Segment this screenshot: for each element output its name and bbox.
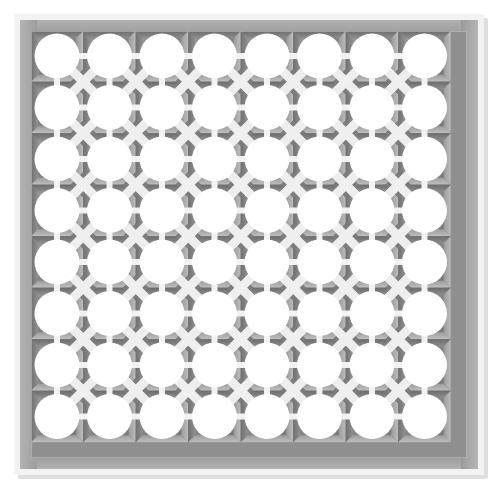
junction-node: [235, 333, 247, 345]
junction-node: [130, 76, 142, 88]
junction-node: [287, 333, 299, 345]
junction-node: [130, 385, 142, 397]
circle-aperture: [140, 343, 185, 388]
junction-node: [287, 76, 299, 88]
circle-aperture: [192, 137, 237, 182]
circle-aperture: [297, 34, 342, 79]
junction-node: [182, 282, 194, 294]
circle-aperture: [192, 240, 237, 285]
circle-aperture: [297, 188, 342, 233]
circle-aperture: [402, 394, 447, 439]
circle-aperture: [245, 291, 290, 336]
circle-aperture: [192, 34, 237, 79]
circle-aperture: [87, 34, 132, 79]
junction-node: [392, 282, 404, 294]
junction-node: [77, 127, 89, 139]
circle-aperture: [35, 34, 80, 79]
circle-aperture: [350, 34, 395, 79]
circle-aperture: [297, 394, 342, 439]
circle-aperture: [297, 343, 342, 388]
circle-aperture: [87, 343, 132, 388]
circle-aperture: [87, 137, 132, 182]
circle-aperture: [350, 343, 395, 388]
junction-node: [340, 333, 352, 345]
junction-node: [340, 127, 352, 139]
circle-aperture: [87, 240, 132, 285]
circle-aperture: [245, 85, 290, 130]
junction-node: [130, 333, 142, 345]
circle-aperture: [140, 240, 185, 285]
junction-node: [287, 179, 299, 191]
circle-aperture: [402, 291, 447, 336]
junction-node: [340, 230, 352, 242]
junction-node: [392, 179, 404, 191]
circle-aperture: [297, 85, 342, 130]
circle-aperture: [35, 188, 80, 233]
junction-node: [130, 127, 142, 139]
junction-node: [392, 333, 404, 345]
circle-aperture: [140, 291, 185, 336]
circle-aperture: [402, 188, 447, 233]
junction-node: [235, 385, 247, 397]
junction-node: [77, 230, 89, 242]
junction-node: [130, 230, 142, 242]
junction-node: [235, 282, 247, 294]
junction-node: [182, 333, 194, 345]
circle-aperture: [350, 188, 395, 233]
junction-node: [392, 385, 404, 397]
circle-aperture: [87, 188, 132, 233]
junction-node: [392, 76, 404, 88]
circle-aperture: [245, 137, 290, 182]
circle-aperture: [140, 188, 185, 233]
junction-node: [182, 385, 194, 397]
junction-node: [77, 385, 89, 397]
junction-node: [287, 385, 299, 397]
circle-aperture: [35, 291, 80, 336]
circle-aperture: [350, 291, 395, 336]
junction-node: [182, 127, 194, 139]
circle-aperture: [402, 343, 447, 388]
circle-aperture: [87, 85, 132, 130]
junction-node: [130, 179, 142, 191]
junction-node: [235, 179, 247, 191]
circle-aperture: [35, 394, 80, 439]
junction-node: [130, 282, 142, 294]
circle-aperture: [297, 291, 342, 336]
circle-aperture: [350, 85, 395, 130]
circle-aperture: [350, 394, 395, 439]
junction-node: [392, 127, 404, 139]
circle-aperture: [192, 85, 237, 130]
circle-aperture: [402, 137, 447, 182]
circle-aperture: [402, 85, 447, 130]
circle-aperture: [402, 240, 447, 285]
circle-aperture: [245, 188, 290, 233]
circle-aperture: [245, 343, 290, 388]
circle-aperture: [192, 291, 237, 336]
junction-node: [392, 230, 404, 242]
circle-aperture: [35, 137, 80, 182]
circle-aperture: [140, 137, 185, 182]
circle-aperture: [350, 240, 395, 285]
junction-node: [235, 127, 247, 139]
circle-aperture: [35, 240, 80, 285]
junction-node: [77, 282, 89, 294]
circle-aperture: [245, 394, 290, 439]
circle-aperture: [140, 34, 185, 79]
circle-aperture: [192, 343, 237, 388]
circle-aperture: [87, 291, 132, 336]
junction-node: [77, 179, 89, 191]
junction-node: [340, 385, 352, 397]
circle-aperture: [402, 34, 447, 79]
junction-node: [287, 127, 299, 139]
junction-node: [287, 230, 299, 242]
circle-aperture: [192, 394, 237, 439]
junction-node: [287, 282, 299, 294]
junction-node: [340, 282, 352, 294]
circle-aperture: [192, 188, 237, 233]
circle-aperture: [245, 240, 290, 285]
junction-node: [340, 76, 352, 88]
circle-aperture: [245, 34, 290, 79]
junction-node: [235, 76, 247, 88]
junction-node: [182, 179, 194, 191]
circle-aperture: [35, 343, 80, 388]
